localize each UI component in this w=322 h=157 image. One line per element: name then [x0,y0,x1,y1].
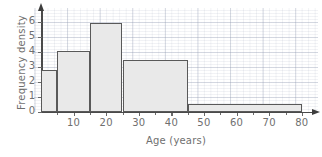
x-axis-tick [204,113,205,117]
x-axis-arrow-icon [312,109,320,115]
x-axis-minor-tick [57,113,58,115]
histogram-bar [188,104,302,112]
x-axis-minor-tick [253,113,254,115]
y-axis-arrow-icon [38,3,44,11]
x-axis-minor-tick [286,113,287,115]
x-axis-tick-label: 70 [254,117,284,128]
x-axis-tick-label: 10 [59,117,89,128]
x-axis-tick-label: 30 [124,117,154,128]
x-axis-tick-label: 80 [287,117,317,128]
x-axis-minor-tick [123,113,124,115]
histogram-figure: 10203040506070800123456 Age (years) Freq… [0,0,322,157]
x-axis-tick [269,113,270,117]
histogram-bar [57,51,90,113]
x-axis-tick [106,113,107,117]
x-axis-tick [171,113,172,117]
x-axis-tick [302,113,303,117]
x-axis-tick-label: 60 [222,117,252,128]
y-axis-tick [38,67,42,68]
x-axis-tick-label: 50 [189,117,219,128]
x-axis-tick [139,113,140,117]
histogram-bar [90,23,123,112]
x-axis-minor-tick [90,113,91,115]
histogram-bar [123,60,188,113]
y-axis-tick [38,37,42,38]
y-axis-tick [38,112,42,113]
x-axis-minor-tick [155,113,156,115]
y-axis-tick [38,52,42,53]
x-axis-minor-tick [220,113,221,115]
x-axis-title: Age (years) [34,135,318,146]
histogram-bar [41,70,57,112]
x-axis-tick [237,113,238,117]
x-axis-tick [74,113,75,117]
y-axis-tick [38,22,42,23]
x-axis-minor-tick [188,113,189,115]
x-axis-tick-label: 20 [91,117,121,128]
x-axis-tick-label: 40 [156,117,186,128]
plot-area [34,8,318,112]
y-axis-title: Frequency density [16,3,27,123]
